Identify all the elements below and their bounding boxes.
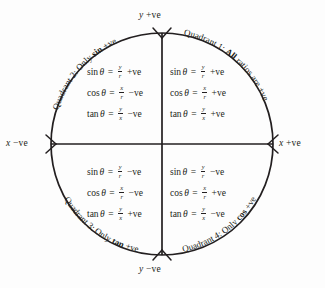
formula-cos: cosθ=xr+ve [170,82,226,103]
formula-cos: cosθ=xr−ve [87,182,143,203]
formula-tan: tanθ=yx+ve [170,103,226,124]
formula-tan: tanθ=yx−ve [87,103,143,124]
trigonometry-quadrant-diagram: Quadrant 1: All ratios are +ve Quadrant … [0,0,325,288]
quadrant-4-formulas: sinθ=yr−ve cosθ=xr+ve tanθ=yx−ve [170,161,226,224]
formula-sin: sinθ=yr−ve [170,161,226,182]
formula-cos: cosθ=xr+ve [170,182,226,203]
axis-label-y-positive: y +ve [139,10,161,20]
axis-label-x-positive: x +ve [279,138,301,148]
quadrant-1-formulas: sinθ=yr+ve cosθ=xr+ve tanθ=yx+ve [170,61,226,124]
diagram-canvas: Quadrant 1: All ratios are +ve Quadrant … [0,0,325,288]
formula-sin: sinθ=yr+ve [87,61,143,82]
quadrant-3-formulas: sinθ=yr−ve cosθ=xr−ve tanθ=yx+ve [87,161,143,224]
formula-sin: sinθ=yr+ve [170,61,226,82]
axis-label-y-negative: y −ve [139,264,161,274]
quadrant-2-formulas: sinθ=yr+ve cosθ=xr−ve tanθ=yx−ve [87,61,143,124]
formula-sin: sinθ=yr−ve [87,161,143,182]
formula-tan: tanθ=yx+ve [87,203,143,224]
formula-tan: tanθ=yx−ve [170,203,226,224]
axis-label-x-negative: x −ve [6,138,28,148]
formula-cos: cosθ=xr−ve [87,82,143,103]
